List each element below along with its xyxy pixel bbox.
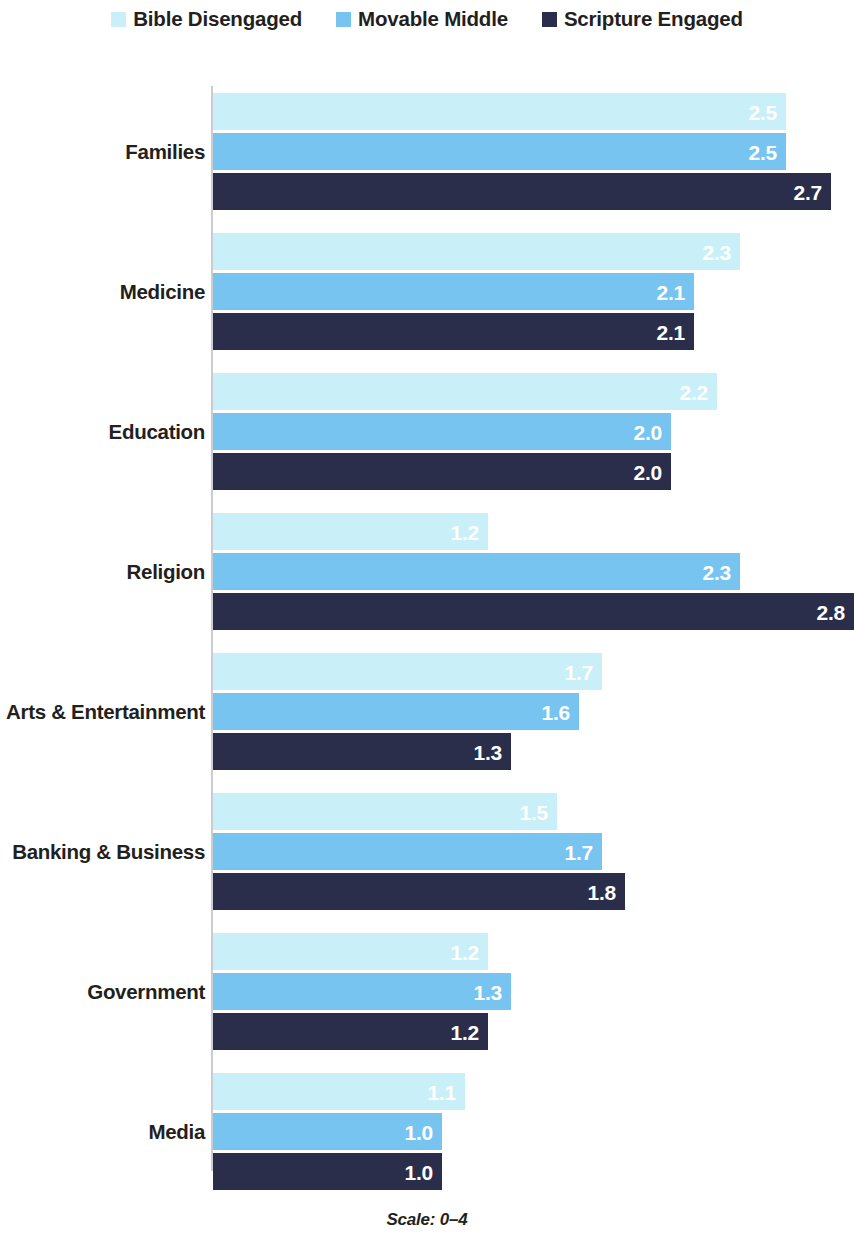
- bar-value-label: 1.7: [564, 661, 593, 682]
- bar-movable-middle: 1.0: [213, 1113, 442, 1150]
- bar-chart-plot-area: Families2.52.52.7Medicine2.32.12.1Educat…: [0, 0, 854, 1248]
- category-label: Banking & Business: [0, 840, 205, 864]
- bar-value-label: 1.0: [404, 1161, 433, 1182]
- bar-movable-middle: 2.0: [213, 413, 671, 450]
- bar-group: Families2.52.52.7: [0, 93, 854, 210]
- bar-value-label: 2.5: [748, 141, 777, 162]
- bar-value-label: 2.7: [793, 181, 822, 202]
- category-label: Religion: [0, 560, 205, 584]
- category-label: Families: [0, 140, 205, 164]
- bar-value-label: 1.7: [564, 841, 593, 862]
- bar-value-label: 1.5: [519, 801, 548, 822]
- bar-scripture-engaged: 2.0: [213, 453, 671, 490]
- bar-bible-disengaged: 1.1: [213, 1073, 465, 1110]
- bar-scripture-engaged: 2.7: [213, 173, 831, 210]
- bar-value-label: 1.2: [450, 941, 479, 962]
- bar-movable-middle: 1.6: [213, 693, 579, 730]
- bar-value-label: 2.0: [633, 461, 662, 482]
- category-label: Education: [0, 420, 205, 444]
- bar-bible-disengaged: 1.7: [213, 653, 602, 690]
- bar-bible-disengaged: 2.5: [213, 93, 786, 130]
- bar-scripture-engaged: 1.0: [213, 1153, 442, 1190]
- bar-bible-disengaged: 2.3: [213, 233, 740, 270]
- bar-movable-middle: 1.3: [213, 973, 511, 1010]
- bar-group: Arts & Entertainment1.71.61.3: [0, 653, 854, 770]
- bar-scripture-engaged: 1.2: [213, 1013, 488, 1050]
- category-label: Medicine: [0, 280, 205, 304]
- bar-bible-disengaged: 1.2: [213, 513, 488, 550]
- category-label: Media: [0, 1120, 205, 1144]
- bar-value-label: 2.3: [702, 561, 731, 582]
- bar-movable-middle: 1.7: [213, 833, 602, 870]
- bar-scripture-engaged: 2.8: [213, 593, 854, 630]
- bar-scripture-engaged: 2.1: [213, 313, 694, 350]
- scale-note: Scale: 0–4: [0, 1210, 854, 1230]
- bar-value-label: 2.1: [656, 321, 685, 342]
- bar-bible-disengaged: 1.5: [213, 793, 557, 830]
- bar-bible-disengaged: 1.2: [213, 933, 488, 970]
- bar-group: Medicine2.32.12.1: [0, 233, 854, 350]
- bar-scripture-engaged: 1.8: [213, 873, 625, 910]
- bar-group: Media1.11.01.0: [0, 1073, 854, 1190]
- bar-value-label: 1.2: [450, 521, 479, 542]
- bar-group: Banking & Business1.51.71.8: [0, 793, 854, 910]
- bar-bible-disengaged: 2.2: [213, 373, 717, 410]
- bar-value-label: 2.3: [702, 241, 731, 262]
- bar-movable-middle: 2.5: [213, 133, 786, 170]
- bar-group: Government1.21.31.2: [0, 933, 854, 1050]
- bar-value-label: 1.2: [450, 1021, 479, 1042]
- bar-value-label: 2.1: [656, 281, 685, 302]
- bar-value-label: 2.5: [748, 101, 777, 122]
- bar-scripture-engaged: 1.3: [213, 733, 511, 770]
- bar-value-label: 1.6: [541, 701, 570, 722]
- category-label: Government: [0, 980, 205, 1004]
- bar-movable-middle: 2.3: [213, 553, 740, 590]
- bar-value-label: 1.3: [473, 981, 502, 1002]
- bar-value-label: 1.1: [427, 1081, 456, 1102]
- bar-group: Religion1.22.32.8: [0, 513, 854, 630]
- bar-value-label: 1.3: [473, 741, 502, 762]
- bar-value-label: 2.0: [633, 421, 662, 442]
- bar-group: Education2.22.02.0: [0, 373, 854, 490]
- bar-value-label: 1.8: [587, 881, 616, 902]
- bar-movable-middle: 2.1: [213, 273, 694, 310]
- category-label: Arts & Entertainment: [0, 700, 205, 724]
- bar-value-label: 1.0: [404, 1121, 433, 1142]
- bar-value-label: 2.2: [679, 381, 708, 402]
- bar-value-label: 2.8: [816, 601, 845, 622]
